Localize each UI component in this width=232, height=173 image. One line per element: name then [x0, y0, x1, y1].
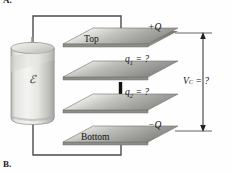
plate-q2-charge-value: = ? — [135, 87, 149, 97]
plate-q1-charge-value: = ? — [135, 54, 149, 64]
plate-q1-charge: q1 = ? — [125, 55, 149, 66]
plate-q2 — [63, 94, 178, 113]
plate-bottom-name: Bottom — [81, 133, 110, 143]
voltage-value: = ? — [196, 76, 210, 86]
plate-q1-face — [63, 61, 178, 77]
plate-q1 — [63, 61, 178, 80]
plate-q2-charge: q2 = ? — [125, 88, 149, 99]
figure-canvas: A. B. — [0, 0, 232, 173]
plate-bottom-charge: −Q — [148, 121, 161, 131]
plate-top-name: Top — [84, 35, 99, 45]
capacitor-voltage-label: VC = ? — [183, 76, 209, 86]
emf-symbol: ℰ — [29, 73, 36, 86]
plate-q2-face — [63, 94, 178, 110]
circuit-artwork — [0, 0, 232, 173]
plate-top-edge — [63, 44, 148, 47]
plate-top-charge: +Q — [148, 23, 161, 33]
plate-q2-edge — [63, 110, 148, 113]
plate-q1-edge — [63, 77, 148, 80]
